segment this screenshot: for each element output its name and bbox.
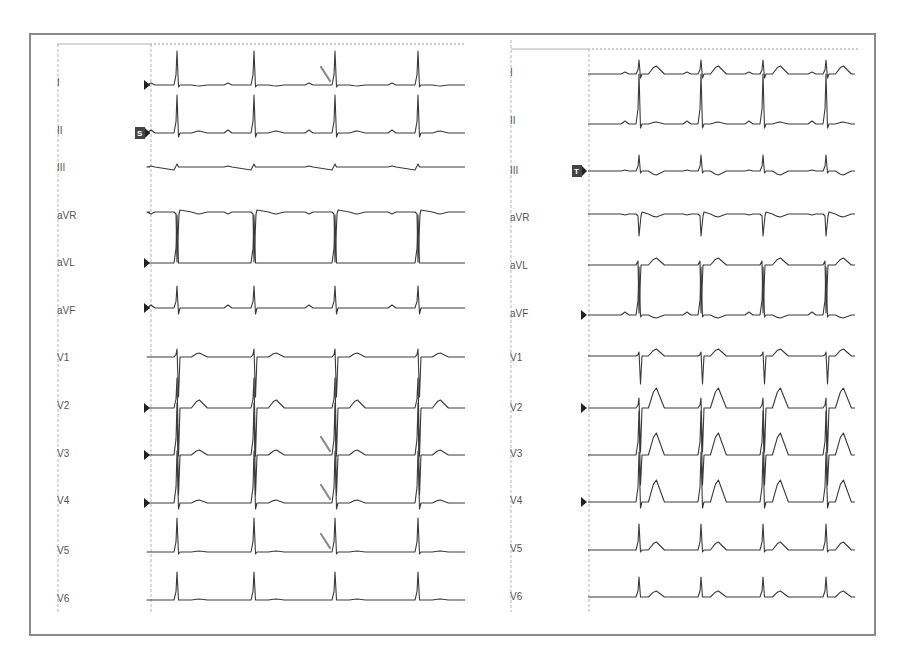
lead-label-right-v1: V1 xyxy=(510,352,523,363)
trace-right-iii xyxy=(588,155,855,175)
lead-label-right-v2: V2 xyxy=(510,402,523,413)
start-marker-right-v4 xyxy=(581,497,587,507)
lead-label-left-v4: V4 xyxy=(57,495,70,506)
lead-label-left-v1: V1 xyxy=(57,352,70,363)
lead-label-right-avr: aVR xyxy=(510,212,529,223)
boxed-marker-s: S xyxy=(135,127,150,139)
trace-right-v5 xyxy=(588,524,855,552)
lead-label-left-v5: V5 xyxy=(57,545,70,556)
ecg-chart: IIIIIIaVRaVLaVFV1V2V3V4V5V6 IIIIIIaVRaVL… xyxy=(0,0,905,660)
left-panel-rulers xyxy=(57,44,466,612)
trace-right-avr xyxy=(588,212,855,236)
start-marker-left-v3 xyxy=(144,450,150,460)
trace-left-v6 xyxy=(147,572,465,600)
left-panel-traces xyxy=(147,51,465,600)
lead-label-left-iii: III xyxy=(57,162,65,173)
start-marker-left-avl xyxy=(144,258,150,268)
start-marker-left-i xyxy=(144,80,150,90)
lead-label-right-i: I xyxy=(510,67,513,78)
trace-left-i xyxy=(147,51,465,87)
lead-label-left-avl: aVL xyxy=(57,257,75,268)
trace-left-avl xyxy=(147,215,465,263)
right-lead-labels: IIIIIIaVRaVLaVFV1V2V3V4V5V6 xyxy=(510,67,529,602)
lead-label-right-v4: V4 xyxy=(510,495,523,506)
delta-wave-arrow-v5 xyxy=(321,534,330,548)
lead-label-left-ii: II xyxy=(57,125,63,136)
trace-right-v1 xyxy=(588,349,855,384)
lead-label-left-avf: aVF xyxy=(57,305,75,316)
lead-label-right-avl: aVL xyxy=(510,260,528,271)
right-panel-traces xyxy=(588,60,855,597)
left-lead-labels: IIIIIIaVRaVLaVFV1V2V3V4V5V6 xyxy=(57,77,76,604)
lead-label-right-v6: V6 xyxy=(510,591,523,602)
lead-label-right-v3: V3 xyxy=(510,448,523,459)
start-marker-right-avf xyxy=(581,310,587,320)
trace-right-v3 xyxy=(588,411,855,485)
lead-label-left-v3: V3 xyxy=(57,448,70,459)
start-marker-left-v2 xyxy=(144,403,150,413)
trace-right-avl xyxy=(588,258,855,313)
trace-left-v4 xyxy=(147,451,465,509)
delta-wave-arrow-v3 xyxy=(321,437,330,451)
trace-right-i xyxy=(588,60,855,78)
trace-right-v6 xyxy=(588,577,855,597)
svg-text:T: T xyxy=(574,167,579,176)
start-marker-left-avf xyxy=(144,303,150,313)
lead-label-right-avf: aVF xyxy=(510,308,528,319)
lead-label-right-ii: II xyxy=(510,115,516,126)
right-panel-rulers xyxy=(511,40,858,612)
trace-right-ii xyxy=(588,74,855,128)
trace-right-v4 xyxy=(588,452,855,508)
trace-right-avf xyxy=(588,267,855,318)
trace-left-ii xyxy=(147,95,465,137)
trace-left-avf xyxy=(147,286,465,314)
boxed-marker-t: T xyxy=(572,165,587,177)
lead-label-left-v6: V6 xyxy=(57,593,70,604)
lead-label-left-v2: V2 xyxy=(57,400,70,411)
trace-left-v5 xyxy=(147,518,465,554)
trace-left-iii xyxy=(147,164,465,170)
start-marker-right-v2 xyxy=(581,403,587,413)
start-marker-left-v4 xyxy=(144,498,150,508)
lead-label-right-iii: III xyxy=(510,165,518,176)
delta-wave-arrow-v4 xyxy=(321,485,330,499)
svg-text:S: S xyxy=(137,129,143,138)
delta-wave-arrow-i xyxy=(321,67,330,81)
lead-label-left-avr: aVR xyxy=(57,210,76,221)
lead-label-left-i: I xyxy=(57,77,60,88)
lead-label-right-v5: V5 xyxy=(510,543,523,554)
calibration-markers: ST xyxy=(135,80,587,508)
